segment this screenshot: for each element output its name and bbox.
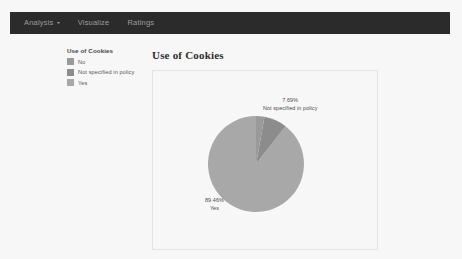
nav-item-ratings[interactable]: Ratings: [118, 12, 163, 34]
chevron-down-icon: ▾: [57, 15, 60, 30]
legend-item-label: Not specified in policy: [78, 69, 134, 75]
nav-item-visualize[interactable]: Visualize: [69, 12, 119, 34]
pie-label-yes: 89.46% Yes: [205, 197, 224, 213]
chart-panel: 7.69% Not specified in policy 89.46% Yes: [152, 70, 378, 250]
pie-label-percent: 7.69%: [263, 97, 317, 105]
nav-item-ratings-label: Ratings: [127, 18, 154, 27]
top-navigation-bar: Analysis▾ Visualize Ratings: [10, 12, 450, 34]
legend-item-yes[interactable]: Yes: [67, 79, 162, 86]
nav-item-analysis-label: Analysis: [24, 18, 54, 27]
pie-label-name: Not specified in policy: [263, 105, 317, 113]
pie-label-not-specified-in-policy: 7.69% Not specified in policy: [263, 97, 317, 113]
pie-label-percent: 89.46%: [205, 197, 224, 205]
pie-label-name: Yes: [205, 205, 224, 213]
nav-item-analysis[interactable]: Analysis▾: [15, 12, 69, 34]
nav-item-visualize-label: Visualize: [78, 18, 110, 27]
legend-title: Use of Cookies: [67, 47, 162, 54]
chart-title: Use of Cookies: [152, 49, 224, 61]
legend-item-label: No: [78, 59, 85, 65]
chart-legend: Use of Cookies No Not specified in polic…: [67, 47, 162, 90]
legend-item-not-specified-in-policy[interactable]: Not specified in policy: [67, 69, 162, 76]
legend-swatch-icon: [67, 69, 74, 76]
legend-swatch-icon: [67, 58, 74, 65]
pie-chart: 7.69% Not specified in policy 89.46% Yes: [153, 71, 379, 251]
legend-item-no[interactable]: No: [67, 58, 162, 65]
legend-swatch-icon: [67, 79, 74, 86]
legend-item-label: Yes: [78, 80, 87, 86]
